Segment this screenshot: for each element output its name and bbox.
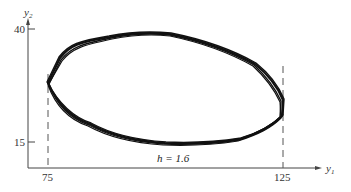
x-tick-label-125: 125 [274, 171, 291, 183]
x-tick-label-75: 75 [42, 171, 54, 183]
y-axis-label: y2 [23, 6, 33, 20]
x-axis-arrow-icon [315, 166, 322, 170]
x-axis-label: y1 [325, 162, 334, 176]
phase-plot: 40 15 75 125 y2 y1 h = 1.6 [0, 0, 351, 192]
y-tick-label-15: 15 [14, 136, 26, 148]
limit-cycle [47, 32, 284, 145]
parameter-annotation: h = 1.6 [157, 152, 190, 164]
y-tick-label-40: 40 [14, 23, 26, 35]
